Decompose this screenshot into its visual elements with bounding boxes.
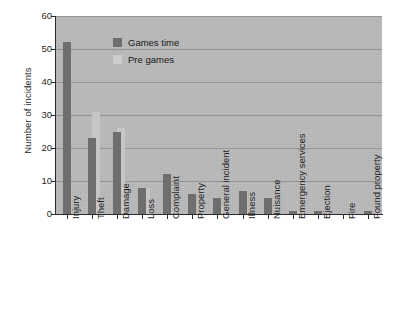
x-tick-label: Theft [96, 197, 106, 219]
x-tick-mark [243, 215, 244, 219]
x-tick-label: Found property [372, 155, 382, 219]
x-tick-label: Damage [121, 183, 131, 219]
legend-item-pre-games: Pre games [113, 52, 179, 66]
y-tick-label: 60 [30, 11, 52, 21]
legend-label-pre-games: Pre games [128, 54, 174, 65]
x-tick-mark [343, 215, 344, 219]
legend-label-games-time: Games time [128, 37, 179, 48]
x-tick-label: Complaint [171, 176, 181, 219]
x-tick-label: Loss [146, 199, 156, 219]
x-tick-label: Property [196, 183, 206, 219]
x-tick-mark [92, 215, 93, 219]
y-tick-label: 50 [30, 44, 52, 54]
x-tick-mark [142, 215, 143, 219]
plot-area [55, 16, 382, 214]
y-tick-mark [51, 214, 55, 215]
x-tick-label: Fire [347, 203, 357, 219]
y-tick-mark [51, 115, 55, 116]
x-tick-mark [268, 215, 269, 219]
x-tick-mark [217, 215, 218, 219]
y-tick-mark [51, 181, 55, 182]
x-tick-label: Ejection [322, 185, 332, 219]
x-tick-label: Injury [71, 196, 81, 219]
x-tick-label: Illness [247, 192, 257, 219]
y-tick-mark [51, 82, 55, 83]
bar-games-time [63, 42, 71, 214]
gridline [55, 148, 382, 149]
x-tick-mark [318, 215, 319, 219]
x-tick-mark [293, 215, 294, 219]
y-tick-mark [51, 49, 55, 50]
y-tick-label: 20 [30, 143, 52, 153]
gridline [55, 16, 382, 17]
legend-swatch-icon-games-time [113, 38, 122, 47]
gridline [55, 49, 382, 50]
x-tick-label: Emergency services [297, 133, 307, 219]
gridline [55, 181, 382, 182]
x-tick-mark [167, 215, 168, 219]
gridline [55, 115, 382, 116]
y-axis-tick-labels: 0102030405060 [26, 0, 52, 333]
x-tick-label: General incident [221, 150, 231, 219]
y-tick-label: 10 [30, 176, 52, 186]
bar-chart-figure: Number of incidents 0102030405060 Games … [0, 0, 398, 333]
x-tick-label: Nuisance [272, 179, 282, 219]
y-tick-mark [51, 148, 55, 149]
x-tick-mark [192, 215, 193, 219]
y-axis-line [55, 16, 56, 215]
y-tick-label: 30 [30, 110, 52, 120]
chart-legend: Games time Pre games [113, 35, 179, 69]
x-tick-mark [67, 215, 68, 219]
legend-item-games-time: Games time [113, 35, 179, 49]
x-tick-mark [368, 215, 369, 219]
legend-swatch-icon-pre-games [113, 55, 122, 64]
y-tick-label: 0 [30, 209, 52, 219]
x-tick-mark [117, 215, 118, 219]
y-tick-mark [51, 16, 55, 17]
y-tick-label: 40 [30, 77, 52, 87]
gridline [55, 82, 382, 83]
